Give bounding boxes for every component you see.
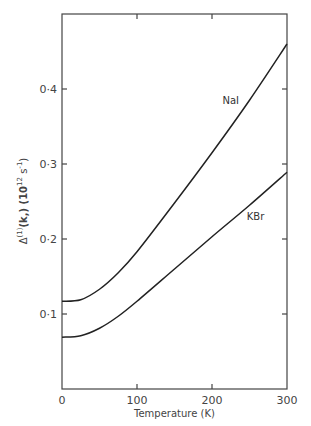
x-tick-label: 0: [59, 394, 66, 407]
series-line-kbr: [62, 172, 287, 337]
x-tick-label: 300: [277, 394, 298, 407]
chart: 0100200300 0·10·20·30·4 NaIKBr Temperatu…: [0, 0, 311, 426]
series-label-nai: NaI: [222, 95, 239, 106]
y-tick-label: 0·2: [40, 233, 58, 246]
y-axis-label: Δ(1)(k,) (1012 s-1): [16, 158, 29, 245]
y-tick-label: 0·3: [40, 158, 58, 171]
y-tick-label: 0·4: [40, 83, 58, 96]
y-axis: 0·10·20·30·4: [40, 83, 288, 321]
y-tick-label: 0·1: [40, 308, 58, 321]
x-tick-label: 200: [202, 394, 223, 407]
x-axis-label: Temperature (K): [133, 408, 215, 419]
series-line-nai: [62, 44, 287, 301]
x-tick-label: 100: [127, 394, 148, 407]
series-group: NaIKBr: [62, 44, 287, 337]
series-label-kbr: KBr: [247, 211, 265, 222]
